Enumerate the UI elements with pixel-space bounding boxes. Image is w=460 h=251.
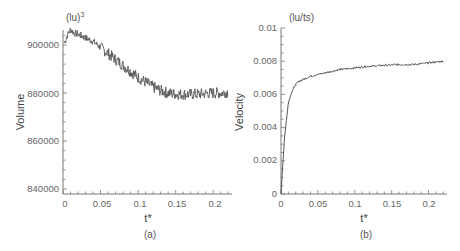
x-ticks-b xyxy=(281,190,443,194)
y-tick-label: 0.008 xyxy=(253,55,277,66)
y-tick-label: 840000 xyxy=(27,183,59,194)
x-tick-label: 0.1 xyxy=(133,198,146,209)
y-tick-label: 0.006 xyxy=(253,88,277,99)
y-axis-title-a: Volume xyxy=(14,94,26,131)
y-tick-label: 860000 xyxy=(27,135,59,146)
y-tick-label: 0.002 xyxy=(253,154,277,165)
x-tick-label: 0 xyxy=(278,198,283,209)
y-ticks-a xyxy=(63,35,67,189)
volume-series-line xyxy=(65,28,229,99)
x-ticks-a xyxy=(63,190,228,194)
y-unit-label-a: (lu)3 xyxy=(66,11,84,23)
y-unit-label-b: (lu/ts) xyxy=(289,12,314,23)
y-tick-label: 0.004 xyxy=(253,121,277,132)
panel-a-volume-chart: 900000 880000 860000 840000 0 0.05 0.1 0… xyxy=(14,11,232,240)
y-ticks-b xyxy=(281,28,285,194)
x-tick-label: 0.2 xyxy=(422,198,435,209)
figure: 900000 880000 860000 840000 0 0.05 0.1 0… xyxy=(0,0,460,251)
x-axis-title-a: t* xyxy=(144,212,152,224)
x-tick-label: 0.15 xyxy=(168,198,187,209)
x-tick-label: 0.15 xyxy=(383,198,402,209)
x-tick-label: 0.1 xyxy=(348,198,361,209)
x-tick-label: 0 xyxy=(62,198,67,209)
caption-b: (b) xyxy=(360,229,372,240)
x-tick-label: 0.2 xyxy=(208,198,221,209)
y-tick-label: 0 xyxy=(272,188,277,199)
panel-b-velocity-chart: 0.01 0.008 0.006 0.004 0.002 0 0 0.05 0.… xyxy=(233,12,447,240)
y-tick-label: 880000 xyxy=(27,88,59,99)
y-tick-label: 900000 xyxy=(27,39,59,50)
x-axis-title-b: t* xyxy=(360,212,368,224)
velocity-series-line xyxy=(281,61,443,194)
x-tick-label: 0.05 xyxy=(93,198,112,209)
caption-a: (a) xyxy=(144,229,156,240)
x-tick-label: 0.05 xyxy=(309,198,328,209)
y-tick-label: 0.01 xyxy=(259,22,278,33)
y-axis-title-b: Velocity xyxy=(233,93,245,131)
